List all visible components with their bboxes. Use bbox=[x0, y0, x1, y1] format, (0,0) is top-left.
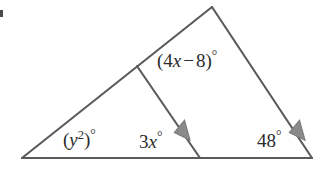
degree-symbol: ° bbox=[90, 127, 95, 142]
scan-artifact-mark bbox=[0, 10, 3, 17]
coefficient: 4 bbox=[163, 50, 173, 71]
right-side-parallel-arrow-icon bbox=[288, 119, 308, 141]
minus-operator: − bbox=[181, 50, 196, 71]
geometry-figure: (4x−8)° (y2)° 3x° 48° bbox=[0, 0, 324, 171]
angle-label-3x: 3x° bbox=[139, 130, 162, 151]
variable-y: y bbox=[69, 129, 77, 150]
variable-x: x bbox=[173, 50, 181, 71]
coefficient: 3 bbox=[139, 131, 149, 152]
variable-x: x bbox=[149, 131, 157, 152]
angle-label-48: 48° bbox=[257, 129, 281, 150]
degree-symbol: ° bbox=[276, 128, 281, 143]
angle-label-y-squared: (y2)° bbox=[63, 128, 96, 149]
angle-value: 48 bbox=[257, 130, 276, 151]
degree-symbol: ° bbox=[212, 48, 217, 63]
angle-label-4x-minus-8: (4x−8)° bbox=[157, 49, 217, 70]
degree-symbol: ° bbox=[157, 129, 162, 144]
